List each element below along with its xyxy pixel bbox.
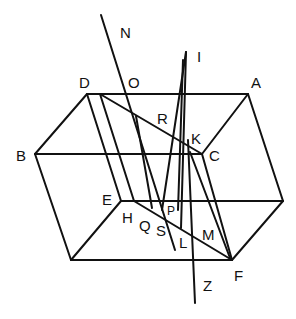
label-Z: Z [203, 277, 212, 294]
edge-B-lower [35, 154, 71, 260]
label-R: R [157, 110, 168, 127]
diagram-canvas: N I D O A R K B C E H Q S P L M F Z [0, 0, 296, 319]
line-O-Q [136, 116, 152, 208]
label-I: I [197, 48, 201, 65]
edge-DB [35, 94, 87, 154]
label-C: C [209, 147, 220, 164]
edge-A-right [248, 94, 283, 201]
label-A: A [251, 74, 261, 91]
label-Q: Q [139, 217, 151, 234]
label-E: E [102, 191, 112, 208]
label-D: D [79, 74, 90, 91]
vertex-labels: N I D O A R K B C E H Q S P L M F Z [16, 24, 261, 294]
edge-DE [87, 94, 121, 201]
geometry-diagram: N I D O A R K B C E H Q S P L M F Z [0, 0, 296, 319]
label-H: H [122, 209, 133, 226]
label-O: O [128, 74, 140, 91]
edge-right-F [232, 201, 283, 260]
edge-E-lowerleft [71, 201, 121, 260]
label-P: P [167, 204, 175, 218]
label-K: K [191, 130, 201, 147]
label-B: B [16, 147, 26, 164]
label-L: L [179, 234, 187, 251]
label-F: F [234, 267, 243, 284]
label-N: N [120, 24, 131, 41]
label-M: M [202, 226, 215, 243]
edge-AC [202, 94, 248, 154]
label-S: S [156, 222, 166, 239]
